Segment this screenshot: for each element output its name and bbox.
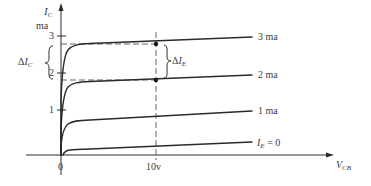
delta-ie-brace-icon xyxy=(164,45,171,78)
curve-label-2ma: 2 ma xyxy=(258,70,278,80)
point-2ma-10v xyxy=(154,78,158,82)
y-tick-label-3: 3 xyxy=(49,31,54,41)
delta-ie-label: ΔIE xyxy=(172,56,186,68)
curve-ie-0 xyxy=(63,142,252,155)
y-axis-label: IC xyxy=(44,6,52,19)
transistor-characteristics-diagram: IC ma 3 2 1 0 10v VCB 3 ma 2 ma 1 ma IE … xyxy=(0,0,371,186)
y-axis-unit: ma xyxy=(36,21,48,31)
x-tick-label-10v: 10v xyxy=(146,162,161,172)
curve-label-3ma: 3 ma xyxy=(258,32,278,42)
x-axis-subscript: CB xyxy=(342,164,351,172)
delta-ie-subscript: E xyxy=(182,60,186,68)
x-axis-arrow-icon xyxy=(326,153,334,158)
curve-label-1ma: 1 ma xyxy=(258,106,278,116)
x-axis-label: VCB xyxy=(336,160,351,172)
curve-3ma xyxy=(61,37,252,155)
ie-value: = 0 xyxy=(265,137,281,148)
curve-label-ie-0: IE = 0 xyxy=(257,138,280,150)
point-3ma-10v xyxy=(154,42,158,46)
diagram-canvas xyxy=(0,0,371,186)
y-axis-arrow-icon xyxy=(59,3,64,11)
dashed-guides xyxy=(61,32,156,160)
delta-ic-subscript: C xyxy=(28,61,33,69)
y-tick-label-1: 1 xyxy=(49,105,54,115)
curves xyxy=(61,37,252,155)
y-tick-label-2: 2 xyxy=(49,68,54,78)
x-tick-label-0: 0 xyxy=(58,162,63,172)
y-axis-subscript: C xyxy=(48,11,53,19)
delta-ic-label: ΔIC xyxy=(18,57,32,69)
